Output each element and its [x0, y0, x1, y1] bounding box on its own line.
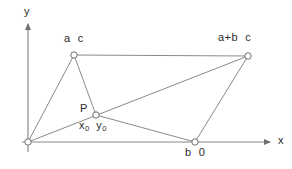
vertex-b-0-marker — [192, 139, 198, 145]
label-x-axis: x — [278, 135, 284, 146]
label-y0-subscript: 0 — [102, 124, 106, 133]
segment-origin-to-a-plus-b-c — [28, 56, 248, 142]
label-vertex-a-c: a c — [64, 33, 84, 44]
label-vertex-a-plus-b-c: a+b c — [218, 32, 251, 43]
label-y-axis: y — [24, 6, 30, 17]
vertex-a-plus-b-c-marker — [245, 53, 251, 59]
label-point-P: P — [80, 103, 88, 114]
segment-b-0-to-a-plus-b-c — [195, 56, 248, 142]
vertex-point-P-marker — [93, 112, 99, 118]
vertex-a-c-marker — [71, 52, 77, 58]
vertex-origin-marker — [25, 139, 31, 145]
geometry-figure: a c a+b c P x0 y0 b 0 y x — [0, 0, 292, 169]
axes-group — [22, 24, 270, 152]
figure-canvas — [0, 0, 292, 169]
segments-group — [28, 55, 248, 142]
segment-a-c-to-a-plus-b-c — [74, 55, 248, 56]
label-point-P-coordinates: x0 y0 — [79, 120, 106, 131]
label-vertex-b-0: b 0 — [185, 147, 205, 158]
segment-origin-to-a-c — [28, 55, 74, 142]
label-x0-subscript: 0 — [85, 124, 89, 133]
segment-P-to-b-0 — [96, 115, 195, 142]
